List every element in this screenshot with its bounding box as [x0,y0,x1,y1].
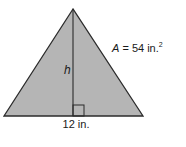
area-exponent: 2 [159,41,163,48]
triangle-figure: h 12 in. A = 54 in.2 [0,0,186,147]
area-label: A = 54 in.2 [111,41,163,54]
area-value: = 54 in. [119,42,158,54]
base-label: 12 in. [63,118,90,130]
area-variable: A [111,42,119,54]
height-label: h [64,63,71,77]
